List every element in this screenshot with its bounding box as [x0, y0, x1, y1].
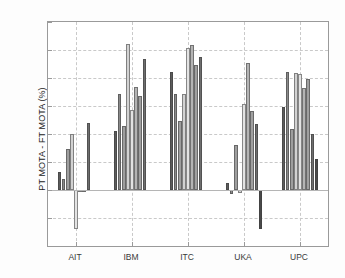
y-tick-mark [48, 190, 52, 191]
bar [298, 74, 302, 190]
bar [74, 190, 78, 229]
bar [194, 65, 198, 190]
bar [302, 88, 306, 190]
bar [246, 63, 250, 190]
bar [311, 134, 315, 190]
bar [286, 72, 290, 190]
x-tick-mark [244, 242, 245, 246]
y-tick-mark [48, 246, 52, 247]
bar [138, 96, 142, 190]
bar [130, 110, 134, 190]
x-tick-label-itc: ITC [157, 252, 217, 262]
plot-area [47, 21, 329, 247]
bar [114, 131, 118, 190]
bar [190, 45, 194, 190]
bar [315, 159, 319, 190]
x-tick-mark [132, 242, 133, 246]
bar [126, 44, 130, 190]
bar [242, 104, 246, 190]
bar [134, 87, 138, 190]
y-axis-label: PT MOTA - FT MOTA (%) [37, 49, 47, 229]
y-tick-mark [48, 50, 52, 51]
bar [66, 149, 70, 190]
y-tick-mark [48, 106, 52, 107]
bar [122, 126, 126, 190]
bar [170, 72, 174, 190]
x-tick-mark [300, 242, 301, 246]
y-tick-mark [48, 78, 52, 79]
x-tick-mark [188, 242, 189, 246]
bar [259, 190, 263, 229]
bar [226, 183, 230, 190]
x-tick-mark [76, 242, 77, 246]
bar [234, 145, 238, 190]
bar [255, 124, 259, 190]
bar [290, 129, 294, 190]
bar [58, 172, 62, 190]
zero-baseline [48, 190, 328, 191]
y-tick-mark [48, 22, 52, 23]
bar [70, 134, 74, 190]
bar [143, 59, 147, 190]
y-tick-mark [48, 134, 52, 135]
bar [250, 111, 254, 190]
bar [294, 73, 298, 190]
x-tick-label-ibm: IBM [101, 252, 161, 262]
bar [199, 57, 203, 190]
x-tick-label-upc: UPC [269, 252, 329, 262]
bar [182, 94, 186, 190]
bar [87, 123, 91, 190]
bar [282, 107, 286, 190]
y-tick-mark [48, 218, 52, 219]
figure: PT MOTA - FT MOTA (%) -20-10010203040506… [0, 0, 345, 278]
y-tick-mark [48, 162, 52, 163]
x-tick-label-uka: UKA [213, 252, 273, 262]
bar [62, 179, 66, 190]
bar [118, 94, 122, 190]
bar [174, 94, 178, 190]
bar [306, 79, 310, 190]
bar [186, 48, 190, 190]
x-tick-label-ait: AIT [45, 252, 105, 262]
bar [178, 121, 182, 190]
